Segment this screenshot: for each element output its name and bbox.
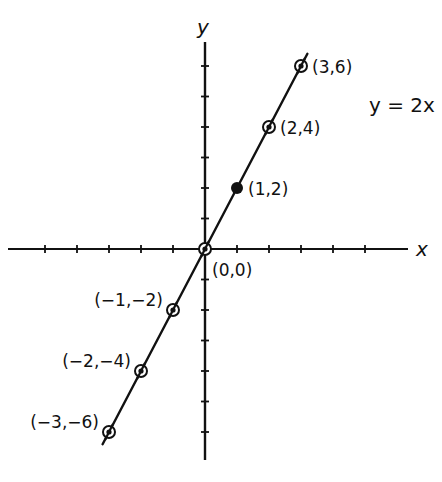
point-label: (1,2)	[248, 179, 288, 199]
point-label: (3,6)	[312, 57, 352, 77]
point-label: (−1,−2)	[94, 290, 163, 310]
point-label: (−2,−4)	[62, 351, 131, 371]
y-axis-label: y	[196, 15, 210, 39]
equation-label: y = 2x	[369, 93, 435, 117]
point-label: (2,4)	[280, 118, 320, 138]
x-axis-label: x	[415, 237, 428, 261]
point-label: (0,0)	[212, 260, 252, 280]
coordinate-plane-chart: (3,6)(2,4)(1,2)(0,0)(−1,−2)(−2,−4)(−3,−6…	[0, 0, 442, 482]
point-marker-filled	[231, 182, 243, 194]
point-labels: (3,6)(2,4)(1,2)(0,0)(−1,−2)(−2,−4)(−3,−6…	[30, 57, 352, 432]
point-label: (−3,−6)	[30, 412, 99, 432]
